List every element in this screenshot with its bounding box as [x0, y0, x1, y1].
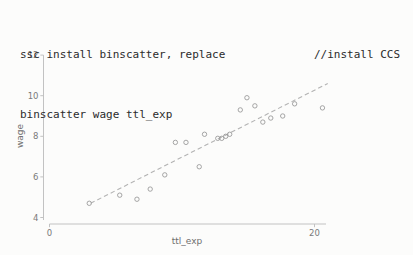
scatter-point: [197, 165, 201, 169]
code-line-2: binscatter wage ttl_exp: [0, 105, 413, 125]
y-tick-label: 4: [33, 213, 38, 223]
code-comment: //install CCS: [314, 45, 400, 65]
code-line-1: ssc install binscatter, replace //instal…: [0, 45, 413, 65]
scatter-point: [135, 197, 139, 201]
stata-code-block: ssc install binscatter, replace //instal…: [0, 5, 413, 145]
x-tick-label: 0: [47, 228, 52, 238]
x-tick-label: 20: [309, 228, 320, 238]
scatter-point: [118, 193, 122, 197]
scatter-point: [148, 187, 152, 191]
code-command-binscatter: binscatter wage ttl_exp: [20, 105, 172, 125]
code-command-install: ssc install binscatter, replace: [20, 45, 225, 65]
y-tick-label: 6: [33, 172, 38, 182]
x-axis-title: ttl_exp: [172, 236, 203, 246]
scatter-point: [163, 173, 167, 177]
